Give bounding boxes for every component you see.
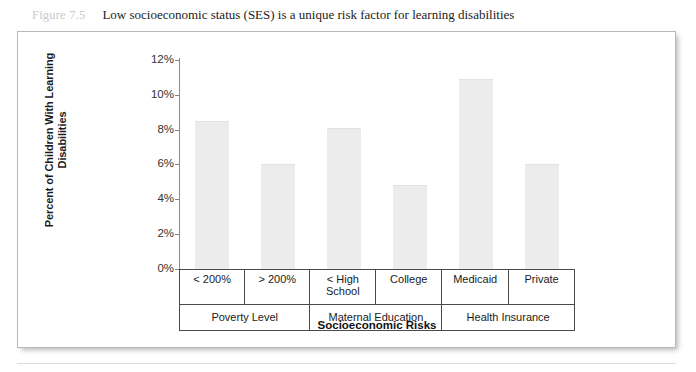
category-label-line1: College [390, 273, 427, 285]
y-tick-mark-8 [175, 130, 179, 131]
y-tick-mark-12 [175, 60, 179, 61]
y-tick-label-4: 4% [134, 193, 174, 205]
y-axis-title-line1: Percent of Children With Learning [43, 53, 55, 227]
bar-maternal-college [393, 185, 427, 270]
category-label-row: < 200% > 200% < High School College Medi… [180, 270, 575, 305]
category-cell-insurance-private: Private [509, 270, 575, 305]
y-tick-label-8: 8% [134, 124, 174, 136]
category-cell-poverty-over-200: > 200% [245, 270, 310, 305]
y-tick-label-10: 10% [134, 89, 174, 101]
y-tick-mark-4 [175, 199, 179, 200]
bar-maternal-less-high-school [327, 128, 361, 270]
bar-poverty-over-200 [261, 164, 295, 270]
category-cell-maternal-college: College [376, 270, 442, 305]
category-label-line1: < High [327, 273, 359, 285]
category-label-line1: Private [524, 273, 558, 285]
category-cell-poverty-under-200: < 200% [180, 270, 245, 305]
category-label-line1: > 200% [259, 273, 297, 285]
bar-insurance-medicaid [459, 79, 493, 270]
category-cell-insurance-medicaid: Medicaid [442, 270, 509, 305]
y-tick-mark-2 [175, 234, 179, 235]
figure-caption-band: Figure 7.5 Low socioeconomic status (SES… [0, 0, 696, 30]
bar-insurance-private [525, 164, 559, 270]
bar-poverty-under-200 [195, 121, 229, 270]
plot-area: Percent of Children With Learning Disabi… [18, 32, 675, 347]
y-tick-label-0: 0% [134, 263, 174, 275]
y-tick-label-6: 6% [134, 158, 174, 170]
y-tick-mark-10 [175, 95, 179, 96]
page-divider-rule [17, 363, 676, 364]
figure-number-label: Figure 7.5 [32, 8, 85, 23]
y-axis-line [179, 58, 180, 270]
y-tick-label-12: 12% [134, 54, 174, 66]
y-axis-title: Percent of Children With Learning Disabi… [43, 30, 69, 250]
category-label-line2: School [326, 285, 360, 297]
y-axis-title-line2: Disabilities [56, 112, 68, 169]
x-axis-title: Socioeconomic Risks [179, 319, 575, 331]
y-tick-label-2: 2% [134, 228, 174, 240]
category-label-line1: < 200% [193, 273, 231, 285]
chart-frame: Percent of Children With Learning Disabi… [17, 31, 676, 348]
y-tick-mark-6 [175, 164, 179, 165]
category-label-line1: Medicaid [453, 273, 497, 285]
figure-caption-text: Low socioeconomic status (SES) is a uniq… [102, 7, 514, 23]
category-cell-maternal-less-high-school: < High School [310, 270, 376, 305]
